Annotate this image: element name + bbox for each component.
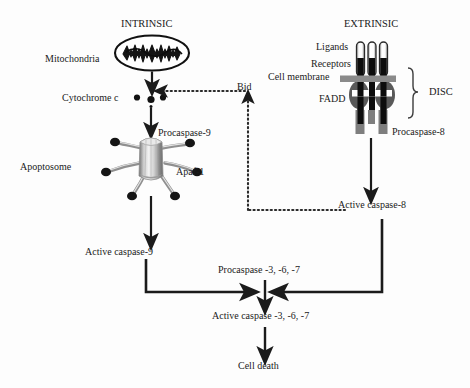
label-procaspase-8: Procaspase-8 [392,126,445,137]
label-active-caspase-9: Active caspase-9 [85,246,153,257]
label-cytochrome-c: Cytochrome c [62,92,118,103]
label-cell-death: Cell death [238,360,279,371]
label-cell-membrane: Cell membrane [268,71,329,82]
label-apaf-1: Apaf-1 [176,166,204,177]
label-active-caspase-8: Active caspase-8 [338,199,406,210]
cytochrome-c-dots [134,94,166,108]
label-ligands: Ligands [316,41,348,52]
label-fadd: FADD [319,93,345,104]
label-apoptosome: Apoptosome [20,161,71,172]
label-active-caspase-3-6-7: Active caspase -3, -6, -7 [212,310,309,321]
disc-complex-icon [340,42,418,134]
label-bid: Bid [237,81,251,92]
arrow-activecaspase8-to-procaspase367 [278,219,382,292]
label-mitochondria: Mitochondria [45,53,99,64]
label-disc: DISC [429,86,453,97]
cell-membrane-bar [340,76,396,83]
heading-extrinsic: EXTRINSIC [344,18,398,29]
label-receptors: Receptors [311,58,351,69]
label-procaspase-9: Procaspase-9 [158,127,211,138]
heading-intrinsic: INTRINSIC [121,18,172,29]
apoptosis-pathway-diagram: INTRINSIC EXTRINSIC Mitochondria Cytochr… [0,0,470,388]
mitochondrion-icon [115,36,189,71]
label-procaspase-3-6-7: Procaspase -3, -6, -7 [218,264,300,275]
disc-brace [408,68,418,118]
